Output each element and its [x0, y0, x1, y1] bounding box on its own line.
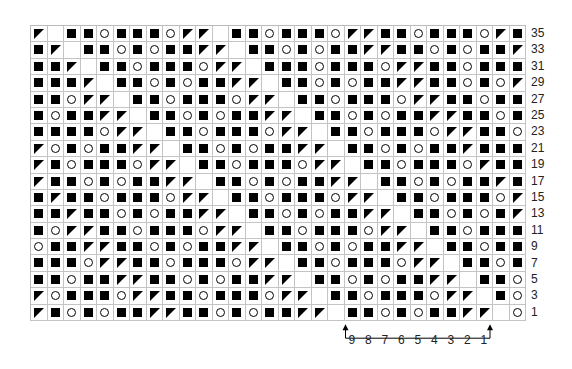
- stitch-number: 4: [426, 333, 443, 347]
- stitch-number: 3: [443, 333, 460, 347]
- stitch-number: 2: [459, 333, 476, 347]
- stitch-number: 1: [476, 333, 493, 347]
- stitch-number: 7: [377, 333, 394, 347]
- arrow-up-icon: [343, 324, 349, 330]
- stitch-number: 8: [360, 333, 377, 347]
- stitch-number: 5: [410, 333, 427, 347]
- repeat-bracket: [0, 0, 572, 369]
- arrow-up-icon: [487, 324, 493, 330]
- stitch-number: 9: [344, 333, 361, 347]
- stitch-number: 6: [393, 333, 410, 347]
